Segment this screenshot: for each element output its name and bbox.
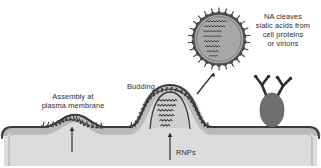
released-virion — [188, 8, 251, 71]
budding-label: Budding — [108, 82, 174, 91]
sialylated-glycoprotein — [254, 75, 292, 127]
rnps-label: RNPs — [176, 148, 210, 157]
virion-matrix — [197, 17, 242, 62]
influenza-budding-diagram: Assembly at plasma membrane Budding RNPs… — [0, 0, 321, 168]
release-arrow — [197, 72, 215, 94]
glycoprotein-body — [260, 93, 284, 127]
sialic-acid-caps — [254, 75, 292, 80]
glycan-branch-left — [256, 77, 268, 95]
glycan-branch-right — [278, 78, 290, 95]
assembly-label: Assembly at plasma membrane — [26, 92, 120, 110]
na-cleaves-label: NA cleaves sialic acids from cell protei… — [248, 12, 318, 48]
